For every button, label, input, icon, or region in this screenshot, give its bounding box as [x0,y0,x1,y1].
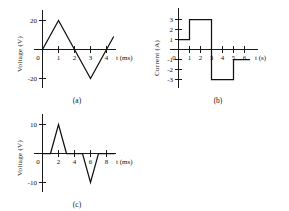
chart-b-xlabel-3: 3 [210,54,214,62]
chart-b-xlabel-1: 1 [188,54,192,62]
chart-c-xlabel-8: 8 [105,158,109,166]
chart-a-xlabel-2: 2 [73,54,77,62]
chart-a-origin-label: 0 [36,54,40,62]
chart-b-ylabel-neg2: -2 [167,66,173,74]
chart-a-xlabel-3: 3 [89,54,93,62]
chart-b-ylabel-neg3: -3 [167,76,173,84]
chart-c-ylabel-10: 10 [30,121,38,129]
chart-b-caption: (b) [148,96,288,105]
chart-a-caption: (a) [8,96,146,105]
chart-b-y-axis-title: Current (A) [153,39,161,76]
chart-b-origin-label: 0 [172,54,176,62]
chart-c-x-axis-title: t (ms) [116,158,133,166]
chart-c-caption: (c) [8,200,146,209]
chart-b-plot: 3 2 1 -1 -2 -3 0 1 2 3 4 5 6 t (s) Curre… [148,2,288,94]
chart-b-xlabel-2: 2 [199,54,203,62]
chart-b-x-axis-title: t (s) [255,54,267,62]
chart-b-ylabel-1: 1 [170,36,174,44]
figure-sheet: 20 -20 0 1 2 3 4 t (ms) Voltage (V) (a) [0,0,289,211]
chart-a-ylabel-neg20: -20 [28,75,38,83]
chart-c-plot: 10 -10 0 2 4 6 8 t (ms) Voltage (V) [8,106,146,198]
chart-a-y-axis-title: Voltage (V) [16,36,24,72]
chart-c-xlabel-2: 2 [57,158,61,166]
chart-b-xlabel-6: 6 [243,54,247,62]
chart-b-xlabel-5: 5 [232,54,236,62]
chart-a-ylabel-20: 20 [30,17,38,25]
chart-b-xlabel-4: 4 [221,54,225,62]
chart-a-x-axis-title: t (ms) [116,54,133,62]
chart-b-ylabel-2: 2 [170,26,174,34]
chart-panel-b: 3 2 1 -1 -2 -3 0 1 2 3 4 5 6 t (s) Curre… [148,2,288,105]
chart-c-y-axis-title: Voltage (V) [16,140,24,176]
chart-panel-c: 10 -10 0 2 4 6 8 t (ms) Voltage (V) (c) [8,106,146,209]
chart-c-xlabel-4: 4 [73,158,77,166]
chart-a-xlabel-1: 1 [57,54,61,62]
chart-panel-a: 20 -20 0 1 2 3 4 t (ms) Voltage (V) (a) [8,2,146,105]
chart-a-xlabel-4: 4 [105,54,109,62]
chart-c-origin-label: 0 [36,158,40,166]
chart-a-plot: 20 -20 0 1 2 3 4 t (ms) Voltage (V) [8,2,146,94]
chart-c-ylabel-neg10: -10 [28,179,38,187]
chart-c-xlabel-6: 6 [89,158,93,166]
chart-b-ylabel-3: 3 [170,16,174,24]
